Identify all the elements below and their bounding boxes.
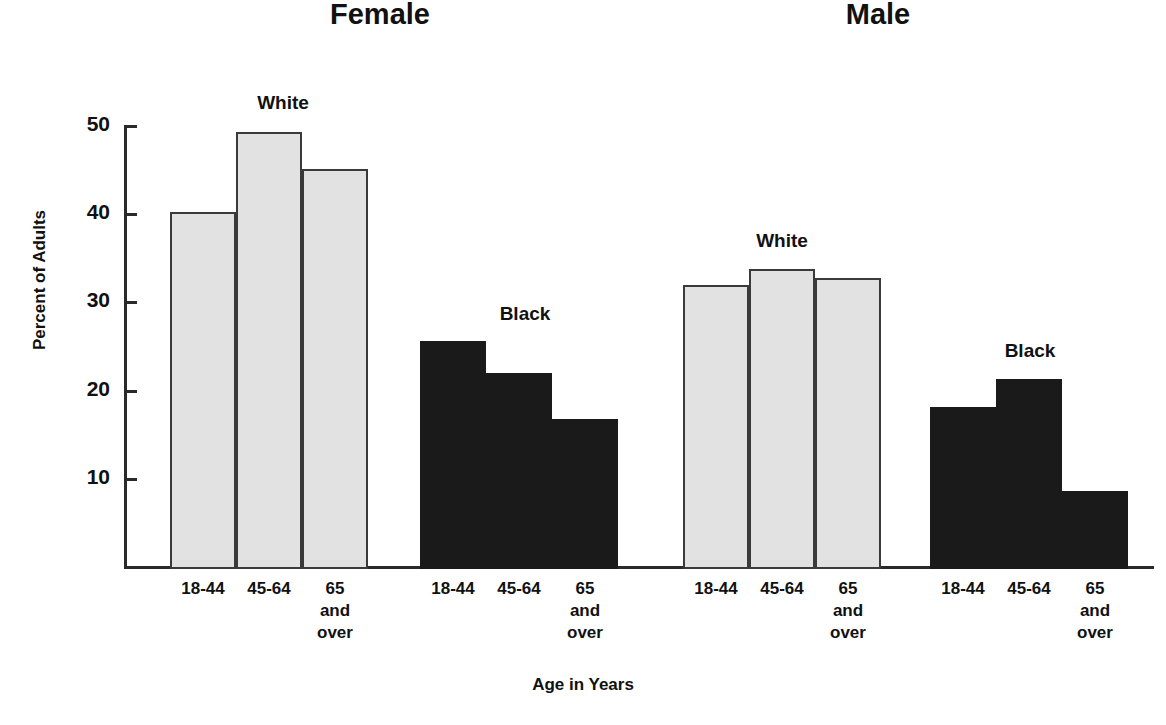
x-label-male-white-65-over: 65 and over: [793, 578, 903, 643]
y-tick-10: [124, 478, 137, 481]
bar-male-white-45-64: [749, 269, 815, 569]
x-label-line-2: and: [1040, 600, 1150, 622]
series-label-male-black: Black: [1005, 340, 1056, 362]
y-axis-title: Percent of Adults: [30, 180, 50, 380]
x-label-line-2: and: [793, 600, 903, 622]
bar-male-white-18-44: [683, 285, 749, 569]
bar-male-black-45-64: [996, 379, 1062, 569]
y-tick-label-30: 30: [50, 288, 110, 312]
series-label-female-black: Black: [500, 303, 551, 325]
x-label-line-3: over: [1040, 622, 1150, 644]
series-label-female-white: White: [257, 92, 309, 114]
bar-female-black-45-64: [486, 373, 552, 569]
x-label-line-1: 65: [280, 578, 390, 600]
x-label-line-1: 65: [793, 578, 903, 600]
y-tick-20: [124, 390, 137, 393]
x-label-line-2: and: [280, 600, 390, 622]
bar-female-white-65-over: [302, 169, 368, 569]
bar-female-white-45-64: [236, 132, 302, 569]
series-label-male-white: White: [756, 230, 808, 252]
x-label-female-black-65-over: 65 and over: [530, 578, 640, 643]
bar-female-white-18-44: [170, 212, 236, 569]
y-axis-line: [124, 125, 127, 568]
x-label-line-1: 65: [530, 578, 640, 600]
x-label-line-3: over: [793, 622, 903, 644]
x-label-male-black-65-over: 65 and over: [1040, 578, 1150, 643]
bar-male-black-18-44: [930, 407, 996, 569]
x-axis-title: Age in Years: [532, 675, 634, 695]
bar-male-black-65-over: [1062, 491, 1128, 569]
y-tick-label-20: 20: [50, 377, 110, 401]
x-label-line-1: 65: [1040, 578, 1150, 600]
y-tick-50: [124, 125, 137, 128]
bar-female-black-18-44: [420, 341, 486, 569]
y-tick-40: [124, 213, 137, 216]
y-tick-label-10: 10: [50, 465, 110, 489]
y-tick-label-50: 50: [50, 112, 110, 136]
y-tick-label-40: 40: [50, 200, 110, 224]
x-label-line-2: and: [530, 600, 640, 622]
panel-title-male: Male: [846, 0, 910, 31]
x-label-line-3: over: [280, 622, 390, 644]
bar-male-white-65-over: [815, 278, 881, 569]
y-tick-30: [124, 301, 137, 304]
bar-female-black-65-over: [552, 419, 618, 569]
x-label-line-3: over: [530, 622, 640, 644]
x-label-female-white-65-over: 65 and over: [280, 578, 390, 643]
panel-title-female: Female: [330, 0, 430, 31]
bar-chart: Female Male Percent of Adults Age in Yea…: [0, 0, 1166, 725]
